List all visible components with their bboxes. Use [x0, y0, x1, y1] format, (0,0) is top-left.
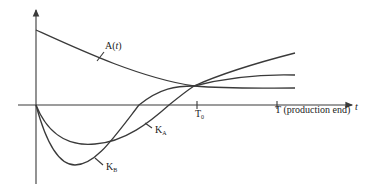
- label-t-production-end: T (production end): [275, 104, 350, 116]
- label-t0: T0: [195, 108, 204, 120]
- label-k-b: KB: [106, 161, 117, 173]
- leader-ka: [145, 123, 152, 128]
- label-k-a: KA: [155, 124, 167, 136]
- label-a-of-t: A(t): [105, 40, 122, 52]
- curve-a-of-t: [36, 30, 295, 88]
- curve-k-b: [36, 53, 295, 165]
- x-axis-label: t: [355, 101, 358, 112]
- diagram-canvas: A(t) KA KB T0 T (production end) t: [0, 0, 371, 191]
- leader-kb: [95, 158, 103, 165]
